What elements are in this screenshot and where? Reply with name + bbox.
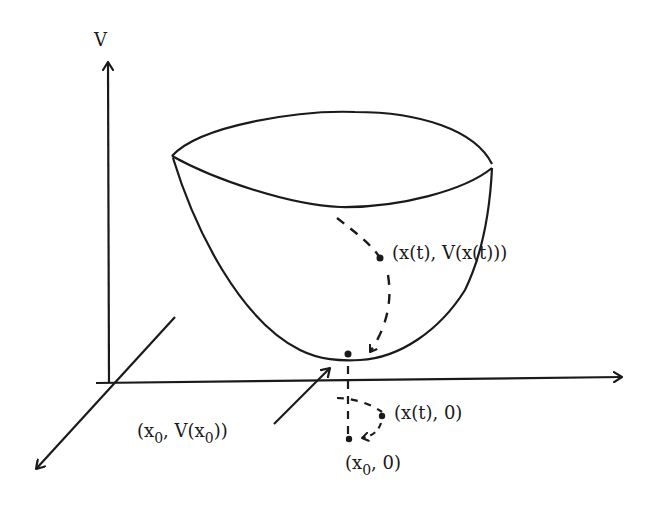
point-x-t-plane: [379, 413, 385, 419]
pointer-arrow: [274, 368, 330, 424]
point-equilibrium: [346, 436, 352, 442]
point-x-t-surface: [377, 255, 384, 262]
horizontal-axis: [96, 377, 622, 383]
label-equilibrium-suffix: , 0): [371, 452, 401, 473]
depth-axis: [36, 317, 175, 469]
label-trajectory-in-plane: (x(t), 0): [394, 404, 462, 422]
trajectory-on-surface: [337, 218, 389, 358]
label-equilibrium: (x0, 0): [345, 454, 401, 477]
point-minimum: [345, 351, 352, 358]
diagram-drawing: [0, 0, 650, 513]
label-minimum-suffix: )): [214, 420, 228, 441]
v-axis-label: V: [94, 31, 107, 49]
v-axis: [108, 62, 109, 383]
label-minimum-prefix: (x: [137, 420, 154, 441]
label-trajectory-on-surface: (x(t), V(x(t))): [392, 244, 507, 262]
projection-trajectory: [337, 366, 385, 442]
label-minimum-sub2: 0: [205, 430, 214, 446]
label-minimum-sub1: 0: [154, 430, 163, 446]
bowl-surface: [172, 112, 492, 360]
label-minimum-point: (x0, V(x0)): [137, 422, 228, 445]
label-equilibrium-sub: 0: [362, 462, 371, 478]
diagram-canvas: V (x(t), V(x(t))) (x0, V(x0)) (x(t), 0) …: [0, 0, 650, 513]
label-minimum-mid: , V(x: [163, 420, 205, 441]
label-equilibrium-prefix: (x: [345, 452, 362, 473]
